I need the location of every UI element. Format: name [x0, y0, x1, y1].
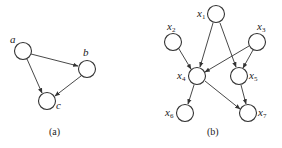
- panel-b-nodes: x1 x2 x3 x4 x5 x6 x7: [164, 6, 267, 122]
- node-x3-label: x3: [256, 20, 266, 34]
- node-x6-label: x6: [164, 106, 174, 120]
- node-x3: [249, 34, 266, 51]
- edge-x4-x7: [205, 81, 240, 109]
- node-b-label: b: [83, 46, 89, 58]
- node-c: [39, 93, 56, 110]
- edge-x1-x4: [200, 23, 213, 67]
- node-x4-label: x4: [176, 69, 186, 83]
- node-x4: [189, 68, 206, 85]
- edge-b-c: [55, 76, 81, 96]
- node-x2: [165, 34, 182, 51]
- edge-x4-x6: [188, 85, 194, 104]
- node-x1-label: x1: [196, 7, 206, 21]
- panel-a-edges: [27, 54, 81, 96]
- node-c-label: c: [56, 99, 61, 111]
- node-x5: [231, 68, 248, 85]
- node-x7: [240, 105, 257, 122]
- node-x1: [208, 6, 225, 23]
- edge-a-b: [31, 54, 78, 66]
- node-x2-label: x2: [166, 20, 176, 34]
- node-x6: [177, 105, 194, 122]
- node-x7-label: x7: [257, 106, 267, 120]
- figure-canvas: a b c (a): [0, 0, 282, 148]
- panel-b: x1 x2 x3 x4 x5 x6 x7 (b): [164, 6, 267, 139]
- edge-x2-x4: [179, 49, 191, 69]
- panel-a-nodes: a b c: [10, 33, 96, 111]
- dag-figure: a b c (a): [0, 0, 282, 148]
- node-a-label: a: [10, 33, 16, 45]
- edge-a-c: [27, 59, 42, 93]
- node-b: [79, 61, 96, 78]
- edge-x1-x5: [220, 23, 236, 67]
- node-a: [15, 43, 32, 60]
- node-x5-label: x5: [248, 69, 258, 83]
- panel-b-edges: [179, 23, 253, 109]
- panel-a: a b c (a): [10, 33, 96, 138]
- caption-a: (a): [49, 126, 60, 138]
- caption-b: (b): [207, 126, 219, 138]
- edge-x5-x7: [241, 85, 246, 104]
- edge-x3-x5: [243, 50, 253, 68]
